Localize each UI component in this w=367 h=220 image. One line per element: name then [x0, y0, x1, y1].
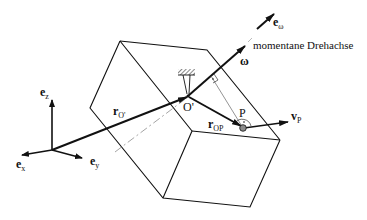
label-e-x: ex: [16, 158, 25, 170]
label-e-omega: eω: [273, 16, 284, 28]
label-v-P: vP: [291, 110, 301, 122]
axis-dashdot-line: [115, 97, 188, 152]
label-r-O: rO': [113, 105, 126, 117]
axis-dot-gap: [248, 38, 252, 42]
label-omega: ω: [240, 55, 249, 67]
label-P: P: [239, 107, 246, 119]
point-O-prime: [187, 95, 190, 98]
omega-axis-line: [188, 46, 245, 96]
fixed-support: [178, 69, 195, 94]
label-O-prime: O': [183, 101, 194, 113]
label-e-z: ez: [40, 86, 49, 98]
rigid-body-rotation-diagram: ez ex ey rO' O' ω eω momentane Drehachse…: [0, 0, 367, 220]
point-P: [240, 125, 247, 132]
axis-label-momentane-drehachse: momentane Drehachse: [253, 40, 353, 51]
label-r-OP: rOP: [208, 118, 224, 130]
label-e-y: ey: [90, 155, 99, 167]
e-omega-arrow: [257, 14, 274, 29]
